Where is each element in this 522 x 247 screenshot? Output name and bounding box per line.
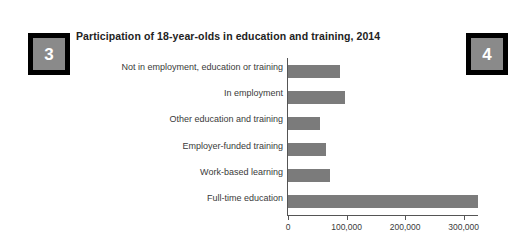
page-marker-left-label: 3	[33, 38, 65, 70]
chart-title: Participation of 18-year-olds in educati…	[76, 30, 380, 42]
x-tick	[347, 215, 348, 220]
x-tick-label: 300,000	[448, 222, 479, 232]
category-label: Full-time education	[207, 193, 283, 203]
x-tick	[405, 215, 406, 220]
chart-panel: Participation of 18-year-olds in educati…	[0, 0, 522, 247]
bar	[288, 117, 320, 130]
page-marker-right-label: 4	[471, 38, 503, 70]
page-marker-left: 3	[28, 33, 70, 75]
x-tick-label: 0	[286, 222, 291, 232]
bar-row: Other education and training	[288, 110, 483, 136]
page-marker-right: 4	[466, 33, 508, 75]
bar-row: Employer-funded training	[288, 137, 483, 163]
bar-row: Not in employment, education or training	[288, 58, 483, 84]
bar	[288, 143, 326, 156]
bar-row: In employment	[288, 84, 483, 110]
x-tick	[288, 215, 289, 220]
category-label: Other education and training	[169, 114, 283, 124]
bar	[288, 65, 340, 78]
bar	[288, 169, 330, 182]
bar-row: Work-based learning	[288, 163, 483, 189]
plot-area: Not in employment, education or training…	[288, 58, 483, 215]
category-label: In employment	[224, 88, 283, 98]
category-label: Work-based learning	[200, 167, 283, 177]
x-tick	[464, 215, 465, 220]
bar	[288, 195, 478, 208]
bar-rows: Not in employment, education or training…	[288, 58, 483, 215]
bar	[288, 91, 345, 104]
bar-row: Full-time education	[288, 189, 483, 215]
x-axis-line	[287, 215, 478, 216]
x-tick-label: 200,000	[390, 222, 421, 232]
x-tick-label: 100,000	[331, 222, 362, 232]
category-label: Employer-funded training	[182, 141, 283, 151]
category-label: Not in employment, education or training	[121, 62, 283, 72]
